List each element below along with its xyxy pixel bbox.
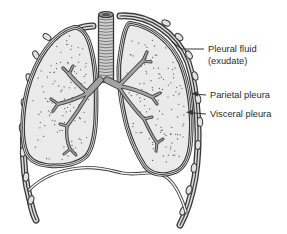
pleural-fluid-label-line2: (exudate): [208, 56, 247, 66]
visceral-pleura-label: Visceral pleura: [210, 109, 272, 119]
parietal-pleura-label: Parietal pleura: [210, 90, 271, 100]
lungs-figure: Pleural fluid (exudate) Parietal pleura …: [0, 0, 287, 234]
pleural-fluid-label-line1: Pleural fluid: [208, 44, 257, 54]
lungs-diagram: Pleural fluid (exudate) Parietal pleura …: [0, 0, 287, 234]
trachea: [99, 12, 114, 83]
